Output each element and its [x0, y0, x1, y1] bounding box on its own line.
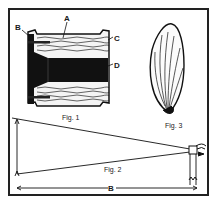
fig1-block — [28, 30, 109, 106]
fig3-wing — [150, 24, 184, 114]
fig2-distance-label: B — [108, 184, 114, 193]
diagram-canvas: A B C D Fig. 1 Fig. 3 — [0, 0, 219, 210]
fig1-label-b: B — [15, 23, 21, 32]
fig2-eye-icon — [189, 144, 206, 180]
fig1-caption: Fig. 1 — [62, 114, 80, 122]
fig1-label-d: D — [114, 61, 120, 70]
fig3-caption: Fig. 3 — [165, 122, 183, 130]
fig1-label-a: A — [64, 14, 70, 23]
fig2-caption: Fig. 2 — [104, 166, 122, 174]
fig1-label-c: C — [114, 34, 120, 43]
